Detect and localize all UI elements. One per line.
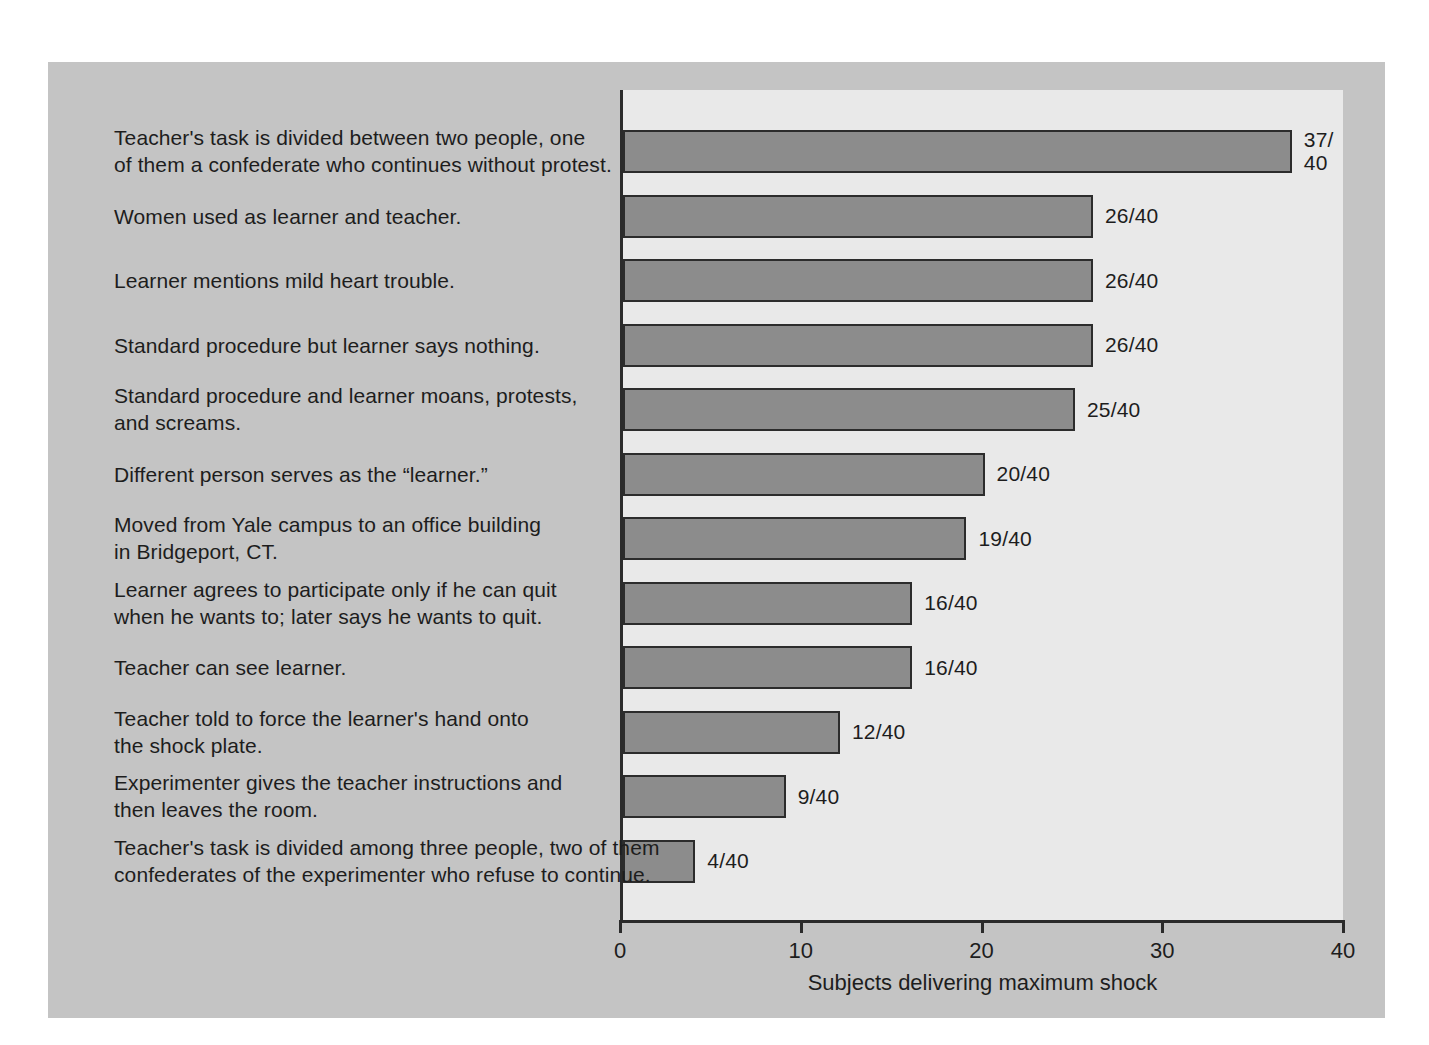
category-label: Standard procedure but learner says noth…	[114, 332, 674, 359]
bar-value-label: 16/40	[924, 591, 978, 615]
bar-value-label: 19/40	[978, 527, 1032, 551]
x-axis-tick-label: 20	[969, 938, 993, 964]
bar-row: 19/40	[623, 517, 1346, 560]
bar-row: 16/40	[623, 646, 1346, 689]
bar-value-label: 37/ 40	[1304, 128, 1346, 175]
category-label: Standard procedure and learner moans, pr…	[114, 382, 674, 437]
bar-row: 20/40	[623, 453, 1346, 496]
x-axis-title: Subjects delivering maximum shock	[620, 970, 1345, 996]
category-label-line: Experimenter gives the teacher instructi…	[114, 769, 674, 796]
bar-value-label: 4/40	[707, 849, 749, 873]
x-axis-tick-label: 0	[614, 938, 626, 964]
bar	[623, 453, 985, 496]
bar-row: 26/40	[623, 259, 1346, 302]
category-label-line: Learner agrees to participate only if he…	[114, 576, 674, 603]
category-label: Teacher can see learner.	[114, 654, 674, 681]
figure-card: 37/ 4026/4026/4026/4025/4020/4019/4016/4…	[48, 62, 1385, 1018]
x-axis-tick	[1161, 920, 1164, 933]
x-axis-tick-label: 30	[1150, 938, 1174, 964]
bar-row: 16/40	[623, 582, 1346, 625]
category-label-line: and screams.	[114, 409, 674, 436]
bar-row: 9/40	[623, 775, 1346, 818]
x-axis-tick-label: 10	[789, 938, 813, 964]
category-label: Moved from Yale campus to an office buil…	[114, 511, 674, 566]
category-label-line: then leaves the room.	[114, 796, 674, 823]
category-label-line: Standard procedure and learner moans, pr…	[114, 382, 674, 409]
bar-row: 12/40	[623, 711, 1346, 754]
category-label-line: Learner mentions mild heart trouble.	[114, 267, 674, 294]
category-label-line: Teacher's task is divided among three pe…	[114, 834, 680, 861]
bar	[623, 259, 1093, 302]
category-label: Learner agrees to participate only if he…	[114, 576, 674, 631]
category-label: Learner mentions mild heart trouble.	[114, 267, 674, 294]
category-label: Experimenter gives the teacher instructi…	[114, 769, 674, 824]
bar-value-label: 25/40	[1087, 398, 1141, 422]
category-label: Women used as learner and teacher.	[114, 203, 674, 230]
bar	[623, 517, 966, 560]
category-label-line: Teacher told to force the learner's hand…	[114, 705, 674, 732]
x-axis-tick-label: 40	[1331, 938, 1355, 964]
bar-value-label: 26/40	[1105, 204, 1159, 228]
category-label-line: the shock plate.	[114, 732, 674, 759]
bar-row: 4/40	[623, 840, 1346, 883]
category-label-line: Teacher can see learner.	[114, 654, 674, 681]
x-axis: 010203040	[620, 920, 1345, 921]
bar	[623, 324, 1093, 367]
bar-value-label: 9/40	[798, 785, 840, 809]
category-label: Different person serves as the “learner.…	[114, 461, 674, 488]
bar	[623, 195, 1093, 238]
bar-row: 26/40	[623, 195, 1346, 238]
category-label-line: Different person serves as the “learner.…	[114, 461, 674, 488]
bar-row: 37/ 40	[623, 130, 1346, 173]
category-label-line: of them a confederate who continues with…	[114, 151, 674, 178]
bar-value-label: 26/40	[1105, 333, 1159, 357]
category-label-line: in Bridgeport, CT.	[114, 538, 674, 565]
bar-value-label: 16/40	[924, 656, 978, 680]
category-label-line: when he wants to; later says he wants to…	[114, 603, 674, 630]
x-axis-tick	[981, 920, 984, 933]
category-label: Teacher told to force the learner's hand…	[114, 705, 674, 760]
category-label: Teacher's task is divided among three pe…	[114, 834, 680, 889]
bar	[623, 388, 1075, 431]
bar	[623, 130, 1292, 173]
category-label-line: Standard procedure but learner says noth…	[114, 332, 674, 359]
category-label-line: confederates of the experimenter who ref…	[114, 861, 680, 888]
bar-row: 26/40	[623, 324, 1346, 367]
bar-value-label: 12/40	[852, 720, 906, 744]
category-label: Teacher's task is divided between two pe…	[114, 124, 674, 179]
x-axis-tick	[1342, 920, 1345, 933]
plot-area: 37/ 4026/4026/4026/4025/4020/4019/4016/4…	[620, 90, 1343, 920]
x-axis-tick	[800, 920, 803, 933]
bar-row: 25/40	[623, 388, 1346, 431]
category-label-line: Teacher's task is divided between two pe…	[114, 124, 674, 151]
category-label-line: Moved from Yale campus to an office buil…	[114, 511, 674, 538]
bar-value-label: 26/40	[1105, 269, 1159, 293]
x-axis-tick	[619, 920, 622, 933]
category-label-line: Women used as learner and teacher.	[114, 203, 674, 230]
bar-value-label: 20/40	[997, 462, 1051, 486]
